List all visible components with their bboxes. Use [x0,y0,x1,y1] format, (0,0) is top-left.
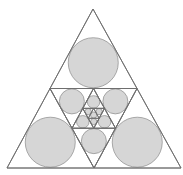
inscribed-circle [59,89,84,114]
inscribed-circle [81,129,106,154]
inscribed-circle [87,96,100,109]
inscribed-circles [25,38,162,168]
inscribed-circle [68,38,118,88]
diagram-stage [0,0,183,175]
inscribed-circle [98,116,111,129]
inscribed-circle [25,117,75,167]
inscribed-circle [112,117,162,167]
nested-triangle-circles-diagram [0,0,183,175]
inscribed-circle [103,89,128,114]
inscribed-circle [77,116,90,129]
